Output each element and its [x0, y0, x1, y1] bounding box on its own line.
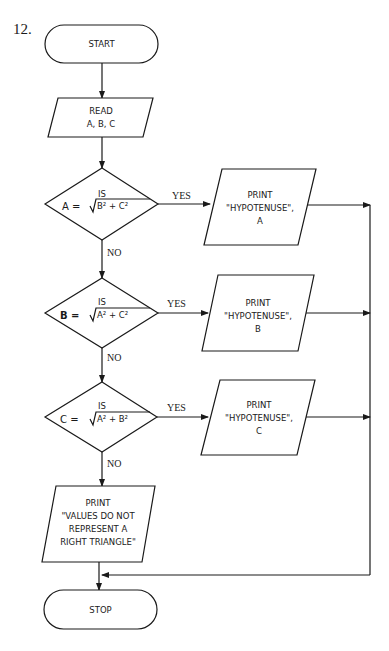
start-terminal: START	[45, 25, 158, 63]
print-a-line-2: "HYPOTENUSE",	[226, 203, 294, 213]
decision-b-top: IS	[98, 297, 106, 307]
no-label-b: NO	[107, 352, 121, 363]
decision-c-diamond: IS C = A² + B²	[45, 382, 157, 452]
decision-a-diamond: IS A = B² + C²	[45, 168, 158, 240]
print-b-line-2: "HYPOTENUSE",	[224, 311, 292, 321]
flowchart: 12. START READ A, B, C IS A = B² + C² YE…	[0, 0, 389, 651]
print-none-line-4: RIGHT TRIANGLE"	[60, 537, 136, 547]
decision-a-lhs: A =	[62, 201, 80, 212]
print-none-line-1: PRINT	[85, 498, 111, 508]
print-c-line-1: PRINT	[246, 400, 272, 410]
print-none-line-2: "VALUES DO NOT	[61, 511, 135, 521]
decision-a-radicand: B² + C²	[97, 201, 128, 211]
decision-a-top: IS	[98, 189, 106, 199]
decision-c-top: IS	[98, 401, 106, 411]
print-c-line-2: "HYPOTENUSE",	[225, 413, 293, 423]
print-none-line-3: REPRESENT A	[69, 524, 128, 534]
print-a-line-1: PRINT	[247, 190, 273, 200]
stop-terminal: STOP	[44, 590, 157, 629]
print-b-line-1: PRINT	[245, 298, 271, 308]
print-hypotenuse-a-box: PRINT "HYPOTENUSE", A	[204, 169, 316, 245]
read-input-box: READ A, B, C	[48, 98, 153, 137]
yes-label-a: YES	[172, 190, 191, 201]
decision-c-lhs: C =	[60, 414, 79, 425]
decision-b-lhs: B =	[60, 310, 79, 321]
decision-c-radicand: A² + B²	[97, 414, 128, 424]
read-line-1: READ	[89, 106, 113, 116]
no-label-c: NO	[107, 458, 121, 469]
no-label-a: NO	[107, 247, 121, 258]
stop-label: STOP	[89, 605, 111, 615]
print-not-right-triangle-box: PRINT "VALUES DO NOT REPRESENT A RIGHT T…	[42, 486, 155, 562]
read-line-2: A, B, C	[87, 119, 115, 129]
print-b-line-3: B	[255, 324, 261, 334]
print-a-line-3: A	[257, 216, 263, 226]
problem-number: 12.	[13, 21, 32, 37]
decision-b-radicand: A² + C²	[97, 310, 128, 320]
print-hypotenuse-b-box: PRINT "HYPOTENUSE", B	[202, 275, 314, 351]
decision-b-diamond: IS B = A² + C²	[45, 278, 158, 348]
print-c-line-3: C	[256, 426, 262, 436]
yes-label-c: YES	[167, 402, 186, 413]
yes-label-b: YES	[167, 298, 186, 309]
print-hypotenuse-c-box: PRINT "HYPOTENUSE", C	[201, 380, 315, 455]
start-label: START	[88, 39, 115, 49]
